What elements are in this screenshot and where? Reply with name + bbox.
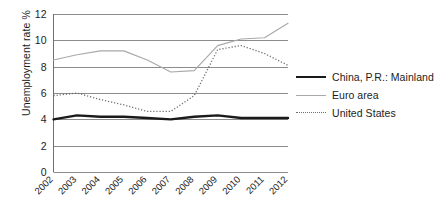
x-tick-label-2003: 2003 [56,174,79,197]
y-tick-label-10: 10 [35,34,47,46]
legend-item-united-states[interactable]: United States [296,105,436,121]
x-tick-label-2008: 2008 [173,174,196,197]
legend-line-sample-euro-area-icon [296,89,326,101]
legend-item-china[interactable]: China, P.R.: Mainland [296,69,436,85]
x-tick-label-2009: 2009 [196,174,219,197]
y-tick-label-2: 2 [41,140,47,152]
data-series-group [54,23,289,119]
series-line-china-p-r-mainland [54,115,289,119]
y-tick-label-8: 8 [41,61,47,73]
x-tick-label-2012: 2012 [267,174,290,197]
legend-label-united-states: United States [332,107,396,119]
x-tick-label-2005: 2005 [103,174,126,197]
y-tick-label-6: 6 [41,87,47,99]
x-tick-label-2002: 2002 [32,174,55,197]
x-tick-labels-group: 2002200320042005200620072008200920102011… [32,174,289,197]
y-tick-label-4: 4 [41,113,47,125]
x-tick-label-2004: 2004 [79,174,102,197]
x-tick-label-2006: 2006 [126,174,149,197]
legend-line-sample-united-states-icon [296,107,326,119]
x-tick-label-2011: 2011 [244,174,266,196]
chart-legend: China, P.R.: Mainland Euro area United S… [296,69,436,123]
series-line-united-states [54,46,289,112]
y-tick-label-12: 12 [35,8,47,20]
legend-item-euro-area[interactable]: Euro area [296,87,436,103]
series-line-euro-area [54,23,289,72]
legend-label-euro-area: Euro area [332,89,379,101]
legend-label-china: China, P.R.: Mainland [332,71,434,83]
x-tick-label-2010: 2010 [220,174,243,197]
y-tick-labels-group: 024681012 [35,8,47,178]
legend-line-sample-china-icon [296,71,326,83]
x-tick-label-2007: 2007 [149,174,172,197]
chart-figure: Unemployment rate % 024681012 2002200320… [0,0,437,210]
